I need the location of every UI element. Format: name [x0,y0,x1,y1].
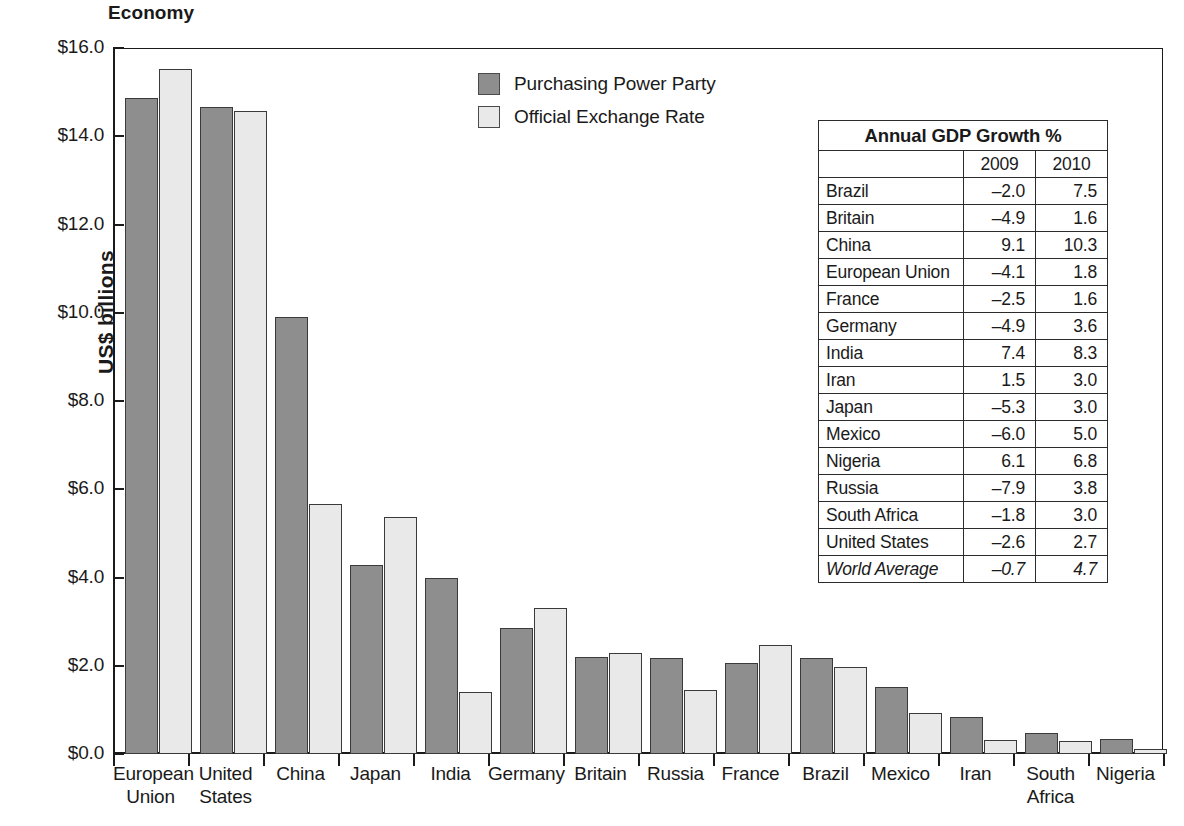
x-axis-labels: European UnionUnited StatesChinaJapanInd… [113,762,1163,824]
bar-ppp [950,717,983,755]
table-cell-2010: 3.0 [1036,367,1108,394]
chart-title: Economy [108,2,194,24]
table-cell-country: Nigeria [819,448,964,475]
bar-oer [159,69,192,754]
x-axis-label: Nigeria [1088,762,1163,785]
bar-group [275,48,342,754]
bar-oer [309,504,342,754]
table-cell-2010: 8.3 [1036,340,1108,367]
bar-oer [534,608,567,754]
table-cell-country: European Union [819,259,964,286]
table-row: Russia–7.93.8 [819,475,1108,502]
bar-group [650,48,717,754]
bar-oer [759,645,792,754]
table-cell-2009: –4.9 [964,205,1036,232]
bar-group [200,48,267,754]
table-cell-2010: 5.0 [1036,421,1108,448]
x-axis-label: Mexico [863,762,938,785]
table-cell-2009: –5.3 [964,394,1036,421]
x-tick-mark [1163,754,1165,766]
table-cell-2010: 7.5 [1036,178,1108,205]
x-axis-label: China [263,762,338,785]
table-cell-2010: 3.6 [1036,313,1108,340]
legend-item: Official Exchange Rate [478,103,716,131]
bar-oer [234,111,267,754]
table-cell-2009: –7.9 [964,475,1036,502]
table-row: France–2.51.6 [819,286,1108,313]
table-col-year: 2009 [964,151,1036,178]
bar-oer [384,517,417,754]
table-cell-country: China [819,232,964,259]
table-body: Brazil–2.07.5Britain–4.91.6China9.110.3E… [819,178,1108,583]
bar-oer [609,653,642,754]
table-cell-country: World Average [819,556,964,583]
y-tick-label: $2.0 [0,654,104,676]
table-cell-2009: 9.1 [964,232,1036,259]
table-cell-2010: 3.0 [1036,394,1108,421]
table-cell-2009: –1.8 [964,502,1036,529]
bar-oer [834,667,867,754]
table-title: Annual GDP Growth % [819,121,1108,151]
legend-label: Official Exchange Rate [514,106,705,128]
table-cell-country: Iran [819,367,964,394]
table-cell-2010: 6.8 [1036,448,1108,475]
bar-oer [984,740,1017,754]
table-cell-country: Japan [819,394,964,421]
table-cell-country: Britain [819,205,964,232]
bar-oer [684,690,717,754]
bar-ppp [800,658,833,754]
table-cell-country: France [819,286,964,313]
table-cell-2010: 1.6 [1036,205,1108,232]
x-axis-label: Russia [638,762,713,785]
annual-gdp-growth-table: Annual GDP Growth % 20092010 Brazil–2.07… [818,120,1108,583]
table-row: United States–2.62.7 [819,529,1108,556]
bar-ppp [125,98,158,754]
table-row: Japan–5.33.0 [819,394,1108,421]
legend-swatch-ppp [478,73,500,95]
economy-bar-chart-figure: Economy US$ billions $0.0$2.0$4.0$6.0$8.… [0,0,1184,826]
bar-ppp [725,663,758,754]
bar-ppp [275,317,308,754]
table-head: Annual GDP Growth % 20092010 [819,121,1108,178]
y-tick-label: $10.0 [0,301,104,323]
table-cell-2009: 1.5 [964,367,1036,394]
y-tick-label: $6.0 [0,477,104,499]
table-cell-country: Russia [819,475,964,502]
table-cell-2009: –4.9 [964,313,1036,340]
table-row: European Union–4.11.8 [819,259,1108,286]
table-cell-2010: 1.6 [1036,286,1108,313]
table-cell-2010: 3.0 [1036,502,1108,529]
x-axis-label: Japan [338,762,413,785]
y-tick-label: $14.0 [0,124,104,146]
table-row: Germany–4.93.6 [819,313,1108,340]
bar-group [500,48,567,754]
y-tick-label: $8.0 [0,389,104,411]
table-col-year: 2010 [1036,151,1108,178]
table-cell-2009: –2.6 [964,529,1036,556]
bar-ppp [1025,733,1058,754]
table-cell-2010: 1.8 [1036,259,1108,286]
bar-oer [459,692,492,754]
table-cell-2009: –2.0 [964,178,1036,205]
bar-group [575,48,642,754]
bar-oer [1059,741,1092,754]
table-row: World Average–0.74.7 [819,556,1108,583]
table-cell-2009: –4.1 [964,259,1036,286]
legend-label: Purchasing Power Party [514,73,716,95]
x-axis-label: India [413,762,488,785]
table-row: Nigeria6.16.8 [819,448,1108,475]
table-row: Iran1.53.0 [819,367,1108,394]
table-row: India7.48.3 [819,340,1108,367]
table-cell-2009: –6.0 [964,421,1036,448]
table-row: China9.110.3 [819,232,1108,259]
legend-item: Purchasing Power Party [478,70,716,98]
y-tick-label: $0.0 [0,742,104,764]
table-cell-country: Brazil [819,178,964,205]
y-tick-label: $16.0 [0,36,104,58]
x-axis-label: United States [188,762,263,808]
table-column-header-row: 20092010 [819,151,1108,178]
bar-ppp [575,657,608,754]
x-axis-label: South Africa [1013,762,1088,808]
bar-ppp [350,565,383,754]
table-cell-2010: 10.3 [1036,232,1108,259]
